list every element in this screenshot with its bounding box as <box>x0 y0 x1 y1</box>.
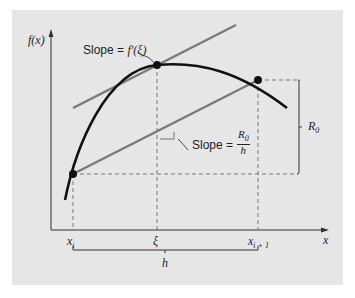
y-axis-arrow-icon <box>49 29 54 37</box>
point-xi-tangent <box>153 61 161 69</box>
mean-value-theorem-diagram <box>0 0 355 298</box>
tick-label-xi: xi <box>67 234 75 250</box>
secant-slope-fraction: R0 h <box>237 129 250 156</box>
point-xi <box>69 170 77 178</box>
point-xi-plus-1 <box>254 76 262 84</box>
y-axis-label: f(x) <box>28 33 45 48</box>
tick-label-xi-greek: ξ <box>153 234 158 249</box>
r0-label: R0 <box>308 119 319 135</box>
function-curve <box>65 64 287 200</box>
secant-slope-annotation: Slope = <box>192 138 233 152</box>
x-axis-label: x <box>323 233 328 248</box>
x-axis-arrow-icon <box>321 228 329 233</box>
slope-triangle <box>160 132 174 139</box>
tick-label-xi-plus-1: xi + 1 <box>248 234 269 250</box>
h-label: h <box>162 256 168 271</box>
tangent-slope-annotation: Slope = f′(ξ) <box>83 43 146 58</box>
axes <box>51 34 324 230</box>
h-brace <box>73 246 258 250</box>
r0-bracket <box>297 80 299 174</box>
